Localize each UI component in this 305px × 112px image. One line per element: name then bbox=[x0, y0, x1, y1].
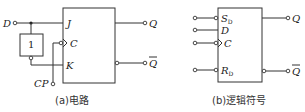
clock-triangle-icon-b bbox=[218, 39, 222, 47]
inverter-label: 1 bbox=[28, 39, 34, 50]
output-q-label-b: Q bbox=[292, 13, 300, 24]
caption-b: (b)逻辑符号 bbox=[212, 94, 266, 106]
rd-inversion-bubble bbox=[214, 68, 218, 72]
input-d-terminal bbox=[13, 21, 17, 25]
symbol-b: SD D C RD Q Q (b)逻辑符号 bbox=[193, 8, 300, 106]
pin-c-label: C bbox=[70, 38, 78, 49]
input-c-terminal-b bbox=[193, 41, 197, 45]
inverter-output-bubble bbox=[29, 56, 33, 60]
input-d-label: D bbox=[2, 18, 11, 29]
wire-inverter-to-k bbox=[31, 60, 63, 65]
output-q-label: Q bbox=[149, 18, 157, 29]
pin-k-label: K bbox=[65, 60, 74, 71]
input-cp-terminal bbox=[51, 82, 55, 86]
output-qbar-terminal-b bbox=[286, 69, 290, 73]
d-flipflop-diagram: D 1 CP J C K Q Q (a)电路 SD bbox=[0, 0, 305, 112]
output-qbar-label-b: Q bbox=[292, 66, 300, 77]
caption-a: (a)电路 bbox=[55, 94, 89, 106]
pin-c-label-b: C bbox=[224, 38, 232, 49]
output-q-terminal bbox=[143, 21, 147, 25]
sd-inversion-bubble bbox=[214, 16, 218, 20]
qbar-inversion-bubble-b bbox=[262, 69, 266, 73]
pin-d-label-b: D bbox=[220, 25, 229, 36]
circuit-a: D 1 CP J C K Q Q (a)电路 bbox=[2, 8, 157, 106]
qbar-inversion-bubble bbox=[115, 61, 119, 65]
input-d-terminal-b bbox=[193, 28, 197, 32]
output-q-terminal-b bbox=[286, 16, 290, 20]
pin-j-label: J bbox=[65, 18, 72, 29]
clock-triangle-icon bbox=[63, 39, 67, 47]
clock-inversion-bubble bbox=[59, 41, 63, 45]
output-qbar-terminal bbox=[143, 61, 147, 65]
c-inversion-bubble bbox=[214, 41, 218, 45]
wire-cp-to-c bbox=[53, 43, 59, 82]
output-qbar-label: Q bbox=[149, 58, 157, 69]
input-cp-label: CP bbox=[34, 78, 49, 89]
pin-rd-label: RD bbox=[220, 65, 234, 77]
input-sd-terminal bbox=[193, 16, 197, 20]
pin-sd-label: SD bbox=[221, 13, 233, 25]
input-rd-terminal bbox=[193, 68, 197, 72]
